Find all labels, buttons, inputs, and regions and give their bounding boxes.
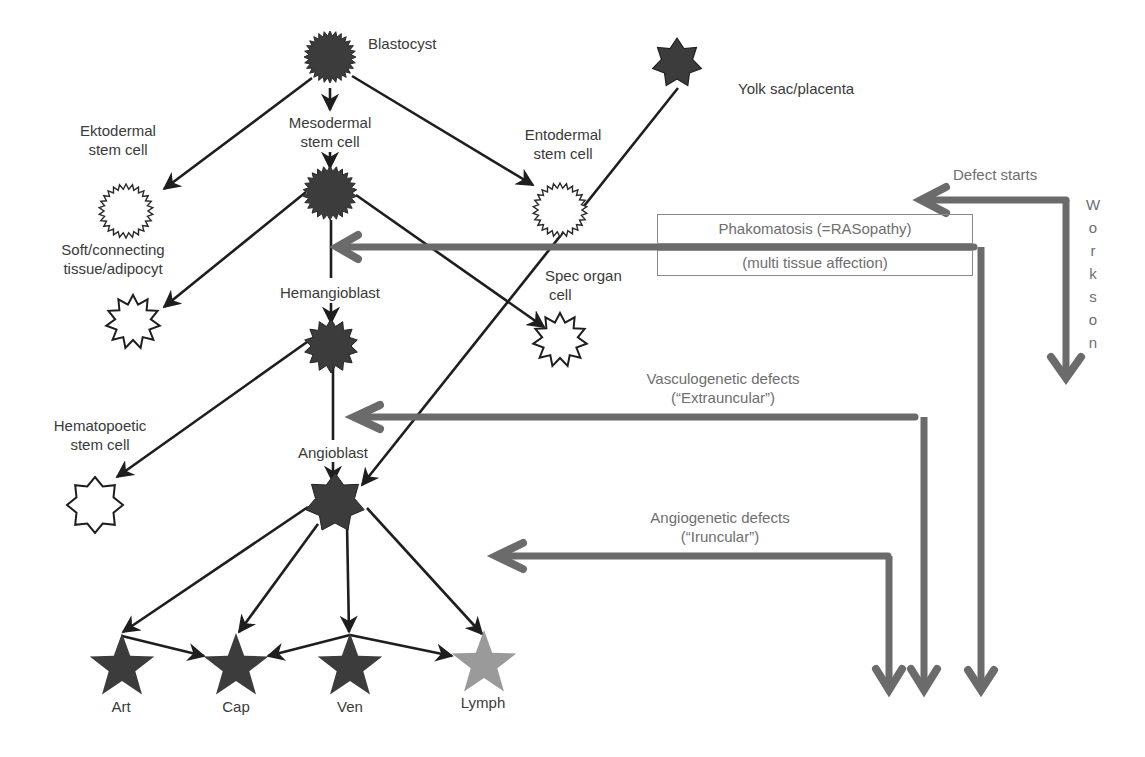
arrow-art-to-cap: [122, 636, 204, 656]
yolk-sac-cell: [653, 38, 702, 86]
cap-star: [204, 633, 269, 695]
ven-star: [318, 633, 383, 695]
label-angiogenetic-line1: Angiogenetic defects: [650, 508, 789, 527]
soft-tissue-cell: [106, 295, 159, 348]
label-phakomatosis: Phakomatosis (=RASopathy): [718, 219, 911, 238]
label-hematopoetic-line2: stem cell: [54, 435, 147, 454]
arrow-angioblast-to-cap: [239, 524, 318, 632]
label-blastocyst: Blastocyst: [368, 34, 436, 53]
label-mesodermal-line2: stem cell: [289, 132, 372, 151]
label-entodermal-line2: stem cell: [525, 144, 602, 163]
hematopoetic-cell: [67, 477, 123, 533]
label-vasculogenetic-line2: (“Extrauncular”): [646, 388, 799, 407]
label-hematopoetic: Hematopoetic stem cell: [54, 416, 147, 454]
label-spec-organ-line1: Spec organ: [545, 266, 622, 285]
hemangioblast-cell: [305, 319, 358, 373]
label-ektodermal-line2: stem cell: [80, 140, 156, 159]
arrow-angioblast-to-art: [123, 507, 308, 632]
arrow-yolk-sac-to-angioblast: [362, 88, 678, 485]
label-lymph: Lymph: [461, 693, 505, 712]
label-vasculogenetic: Vasculogenetic defects (“Extrauncular”): [646, 369, 799, 407]
arrow-angioblast-to-lymph: [367, 508, 482, 634]
label-ektodermal: Ektodermal stem cell: [80, 121, 156, 159]
label-mesodermal-line1: Mesodermal: [289, 113, 372, 132]
label-spec-organ: Spec organ cell: [545, 266, 622, 304]
vasculogenetic-arrow: [354, 405, 937, 690]
vascular-development-diagram: [0, 0, 1145, 757]
angiogenetic-arrow: [496, 543, 902, 690]
label-hematopoetic-line1: Hematopoetic: [54, 416, 147, 435]
spec-organ-cell: [533, 313, 586, 366]
arrow-hemangioblast-to-hematopoetic: [117, 342, 307, 477]
label-angiogenetic-line2: (“Iruncular”): [650, 527, 789, 546]
label-ven: Ven: [337, 697, 363, 716]
label-angioblast: Angioblast: [298, 443, 368, 462]
label-angiogenetic: Angiogenetic defects (“Iruncular”): [650, 508, 789, 546]
lineage-arrows: [117, 76, 678, 656]
label-entodermal-line1: Entodermal: [525, 125, 602, 144]
phakomatosis-arrow: [337, 235, 994, 690]
mesodermal-cell: [303, 166, 357, 220]
arrow-angioblast-to-ven: [347, 524, 349, 632]
label-vasculogenetic-line1: Vasculogenetic defects: [646, 369, 799, 388]
label-defect-starts: Defect starts: [953, 165, 1037, 184]
ektodermal-cell: [99, 184, 153, 238]
label-phakomatosis-sub: (multi tissue affection): [742, 253, 888, 272]
angioblast-cell: [306, 473, 364, 530]
label-mesodermal: Mesodermal stem cell: [289, 113, 372, 151]
label-spec-organ-line2: cell: [545, 285, 622, 304]
entodermal-cell: [533, 183, 587, 237]
label-hemangioblast: Hemangioblast: [280, 283, 380, 302]
label-soft-tissue: Soft/connecting tissue/adipocyt: [61, 240, 164, 278]
label-cap: Cap: [222, 697, 250, 716]
label-art: Art: [111, 697, 130, 716]
label-works-on: W o r k s o n: [1086, 193, 1100, 354]
arrow-ven-to-lymph: [350, 635, 452, 656]
label-entodermal: Entodermal stem cell: [525, 125, 602, 163]
label-ektodermal-line1: Ektodermal: [80, 121, 156, 140]
arrow-mesodermal-to-spec-organ: [356, 195, 544, 327]
lymph-star: [452, 630, 517, 692]
label-yolk-sac: Yolk sac/placenta: [738, 79, 854, 98]
arrow-ven-to-cap: [268, 635, 350, 656]
label-soft-tissue-line1: Soft/connecting: [61, 240, 164, 259]
arrow-blastocyst-to-entodermal: [352, 76, 533, 185]
blastocyst-cell: [304, 31, 356, 83]
label-soft-tissue-line2: tissue/adipocyt: [61, 259, 164, 278]
